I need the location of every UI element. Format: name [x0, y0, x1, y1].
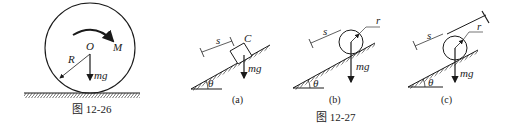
label-r-b: r	[376, 14, 381, 26]
radius-line	[60, 54, 90, 78]
sublabel-b: (b)	[329, 94, 341, 106]
label-R: R	[67, 53, 75, 65]
figure-12-27-a: θ C s mg (a)	[191, 32, 270, 106]
caption-12-26: 图 12-26	[72, 103, 112, 115]
figure-12-26: O M R mg 图 12-26	[24, 3, 140, 115]
label-r-c: r	[477, 20, 482, 32]
sublabel-a: (a)	[232, 94, 243, 106]
label-theta-a: θ	[208, 77, 214, 89]
figure-12-27-b: θ r s mg (b) 图 12-27	[293, 14, 381, 123]
physics-figures: O M R mg 图 12-26 θ C s mg (a) θ r	[0, 0, 506, 129]
label-M: M	[112, 41, 123, 53]
label-s-a: s	[216, 34, 220, 46]
sublabel-c: (c)	[441, 94, 452, 106]
label-theta-c: θ	[428, 76, 434, 88]
label-mg-b: mg	[356, 60, 370, 72]
label-mg-c: mg	[460, 67, 474, 79]
label-s-c: s	[427, 29, 431, 41]
label-C: C	[244, 32, 252, 44]
figure-12-27-c: θ r s mg (c)	[408, 11, 489, 106]
label-s-b: s	[323, 25, 327, 37]
label-theta-b: θ	[313, 77, 319, 89]
caption-12-27: 图 12-27	[316, 111, 356, 123]
block-C	[230, 43, 252, 64]
ground	[24, 93, 140, 98]
label-mg: mg	[94, 69, 108, 81]
label-mg-a: mg	[248, 62, 262, 74]
label-O: O	[86, 40, 94, 52]
